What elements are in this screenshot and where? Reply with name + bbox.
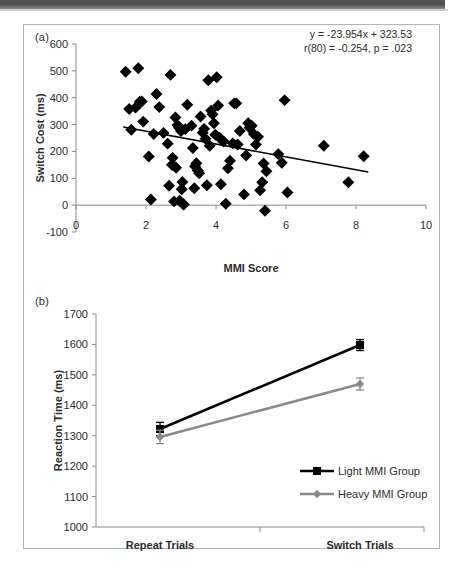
panel-a-x-axis-title: MMI Score xyxy=(223,262,278,274)
panel-b-y-tick-label: 1700 xyxy=(64,308,88,320)
panel-b-y-tick-label: 1400 xyxy=(64,399,88,411)
panel-a-data-point xyxy=(132,62,144,74)
panel-a-y-tick-label: 400 xyxy=(50,92,68,104)
panel-b-y-tick-label: 1300 xyxy=(64,430,88,442)
panel-b-y-tick-label: 1200 xyxy=(64,460,88,472)
panel-a-data-point xyxy=(281,187,293,199)
panel-a-data-point xyxy=(145,194,157,206)
panel-a-data-point xyxy=(234,125,246,137)
panel-a-y-tick-label: 600 xyxy=(50,38,68,50)
panel-a-data-point xyxy=(188,182,200,194)
panel-a-data-point xyxy=(259,205,271,217)
panel-a-data-point xyxy=(238,188,250,200)
panel-a-data-point xyxy=(230,97,242,109)
figure-page: (a) (b) -10001002003004005006000246810MM… xyxy=(0,0,464,583)
panel-b-category-label: Switch Trials xyxy=(326,539,393,551)
panel-a-y-axis-title: Switch Cost (ms) xyxy=(34,93,46,183)
panel-a-x-tick-label: 0 xyxy=(73,219,79,231)
panel-a-data-point xyxy=(195,111,207,123)
panel-a-data-point xyxy=(220,198,232,210)
panel-a-annotation: r(80) = -0.254, p = .023 xyxy=(304,42,412,54)
panel-a-data-point xyxy=(162,138,174,150)
panel-b-data-marker xyxy=(356,341,364,349)
panel-a-data-point xyxy=(215,178,227,190)
panel-a-data-point xyxy=(151,88,163,100)
panel-a-data-point xyxy=(358,150,370,162)
panel-a-x-tick-label: 6 xyxy=(283,219,289,231)
panel-a-data-point xyxy=(163,180,175,192)
panel-a-x-tick-label: 8 xyxy=(353,219,359,231)
panel-a-x-tick-label: 10 xyxy=(420,219,432,231)
panel-a-trendline xyxy=(123,127,368,172)
panel-a-y-tick-label: 500 xyxy=(50,65,68,77)
panel-b-y-tick-label: 1500 xyxy=(64,369,88,381)
panel-b-y-axis-title: Reaction Time (ms) xyxy=(52,370,64,472)
panel-a-y-tick-label: 100 xyxy=(50,172,68,184)
panel-b-legend-label: Light MMI Group xyxy=(338,465,420,477)
panel-a-y-tick-label: 0 xyxy=(62,199,68,211)
panel-b-data-marker xyxy=(156,433,164,441)
panel-a-y-tick-label: -100 xyxy=(46,226,68,238)
panel-a-data-point xyxy=(181,99,193,111)
panel-a-y-tick-label: 300 xyxy=(50,119,68,131)
panel-a-data-point xyxy=(143,151,155,163)
panel-a-data-point xyxy=(208,117,220,129)
panel-a-annotation: y = -23.954x + 323.53 xyxy=(310,28,412,40)
panel-a-y-tick-label: 200 xyxy=(50,145,68,157)
panel-a-data-point xyxy=(153,101,165,113)
panel-a-data-point xyxy=(318,140,330,152)
panel-a-data-point xyxy=(165,69,177,81)
panel-b-y-tick-label: 1000 xyxy=(64,521,88,533)
panel-b-series-line xyxy=(160,384,360,437)
panel-a-data-point xyxy=(279,94,291,106)
panel-a-x-tick-label: 2 xyxy=(143,219,149,231)
panel-b-series-line xyxy=(160,345,360,429)
panel-a-data-point xyxy=(342,176,354,188)
figure-canvas: -10001002003004005006000246810MMI ScoreS… xyxy=(0,0,464,583)
panel-b-legend-marker xyxy=(313,490,321,498)
panel-a-data-point xyxy=(137,116,149,128)
panel-a-data-point xyxy=(201,179,213,191)
panel-b-y-tick-label: 1600 xyxy=(64,338,88,350)
panel-a-data-point xyxy=(240,149,252,161)
panel-b-legend-marker xyxy=(313,467,321,475)
panel-b-category-label: Repeat Trials xyxy=(126,539,194,551)
panel-a-data-point xyxy=(187,142,199,154)
panel-a-x-tick-label: 4 xyxy=(213,219,219,231)
panel-a-data-point xyxy=(176,176,188,188)
panel-a-data-point xyxy=(120,66,132,78)
panel-b-y-tick-label: 1100 xyxy=(64,491,88,503)
panel-b-data-marker xyxy=(356,380,364,388)
panel-b-legend-label: Heavy MMI Group xyxy=(338,488,427,500)
